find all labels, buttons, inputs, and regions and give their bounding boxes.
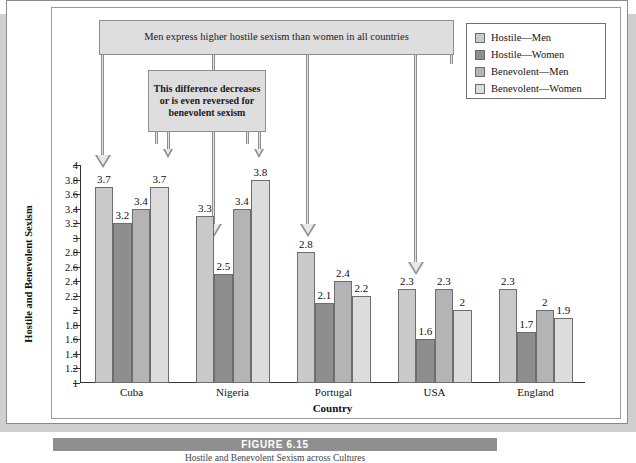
callout-top-statement: Men express higher hostile sexism than w… [99, 20, 454, 55]
legend-swatch-hostile-men [475, 33, 485, 43]
bar-value-label: 3.7 [139, 173, 179, 185]
y-tick-label: 4 [73, 160, 78, 171]
bar-value-label: 2.8 [286, 238, 326, 250]
x-axis-label-cuba: Cuba [95, 386, 169, 398]
figure-number-label: FIGURE 6.15 [241, 439, 309, 450]
y-tick-label: 2.4 [65, 276, 78, 287]
y-tick-label: 1.8 [65, 319, 78, 330]
legend-label-benevolent-women: Benevolent—Women [491, 83, 582, 94]
bar-portugal-benevolent-women[interactable] [352, 296, 371, 383]
y-tick-label: 3.8 [65, 174, 78, 185]
bar-portugal-hostile-women[interactable] [315, 303, 334, 383]
bar-value-label: 3.4 [222, 195, 262, 207]
bar-value-label: 3.4 [121, 195, 161, 207]
y-axis-title: Hostile and Benevolent Sexism [23, 205, 34, 342]
legend-swatch-benevolent-men [475, 67, 485, 77]
bar-usa-hostile-women[interactable] [416, 339, 435, 383]
callout-middle-text: This difference decreases or is even rev… [153, 83, 261, 118]
bar-usa-benevolent-women[interactable] [453, 310, 472, 383]
bar-value-label: 2.1 [304, 289, 344, 301]
connector-mid-nigeria-stub-a [246, 131, 249, 144]
bar-england-benevolent-women[interactable] [554, 318, 573, 383]
bar-value-label: 2.3 [424, 275, 464, 287]
x-axis-label-england: England [499, 386, 573, 398]
bar-group-cuba: 3.73.23.43.7Cuba [95, 165, 169, 383]
bar-value-label: 3.7 [84, 173, 124, 185]
bar-value-label: 2.4 [323, 267, 363, 279]
bar-nigeria-hostile-men[interactable] [196, 216, 215, 383]
y-tick-label: 2.6 [65, 261, 78, 272]
x-axis-label-portugal: Portugal [297, 386, 371, 398]
bar-value-label: 3.2 [102, 209, 142, 221]
connector-top-cuba-vertical [101, 54, 104, 157]
legend-label-hostile-women: Hostile—Women [491, 49, 564, 60]
y-tick-label: 3 [73, 232, 78, 243]
legend-swatch-hostile-women [475, 50, 485, 60]
y-tick-label: 3.6 [65, 189, 78, 200]
x-axis-label-nigeria: Nigeria [196, 386, 270, 398]
y-tick-label: 3.4 [65, 203, 78, 214]
figure-number-bar: FIGURE 6.15 [53, 438, 497, 451]
y-tick-label: 1.6 [65, 334, 78, 345]
bar-value-label: 2.3 [488, 275, 528, 287]
figure-card: Men express higher hostile sexism than w… [6, 0, 628, 424]
bar-cuba-benevolent-women[interactable] [150, 187, 169, 383]
bar-cuba-hostile-women[interactable] [113, 223, 132, 383]
y-tick-label: 2.8 [65, 247, 78, 258]
connector-top-right-stub [450, 54, 453, 64]
bar-value-label: 2.2 [341, 282, 381, 294]
legend-swatch-benevolent-women [475, 84, 485, 94]
legend-item-benevolent-men: Benevolent—Men [475, 63, 605, 80]
legend-label-benevolent-men: Benevolent—Men [491, 66, 569, 77]
bar-chart: Hostile and Benevolent Sexism 11.21.41.6… [80, 165, 585, 383]
arrow-to-cuba-benevolent [163, 149, 173, 158]
bar-value-label: 1.7 [506, 318, 546, 330]
bar-group-nigeria: 3.32.53.43.8Nigeria [196, 165, 270, 383]
legend-item-hostile-men: Hostile—Men [475, 29, 605, 46]
bar-group-england: 2.31.721.9England [499, 165, 573, 383]
bar-group-portugal: 2.82.12.42.2Portugal [297, 165, 371, 383]
bar-value-label: 1.9 [543, 304, 583, 316]
legend-label-hostile-men: Hostile—Men [491, 32, 551, 43]
bar-group-usa: 2.31.62.32USA [398, 165, 472, 383]
bar-value-label: 3.3 [185, 202, 225, 214]
y-tick-label: 3.2 [65, 218, 78, 229]
y-tick-label: 2.2 [65, 290, 78, 301]
figure-caption: Hostile and Benevolent Sexism across Cul… [53, 453, 497, 463]
x-axis-label-usa: USA [398, 386, 472, 398]
y-tick-label: 1 [73, 378, 78, 389]
x-axis-title: Country [80, 402, 585, 414]
bar-portugal-hostile-men[interactable] [297, 252, 316, 383]
bar-value-label: 2 [442, 296, 482, 308]
chart-legend: Hostile—Men Hostile—Women Benevolent—Men… [466, 23, 606, 99]
arrow-to-nigeria-benevolent [254, 149, 264, 158]
bar-value-label: 1.6 [405, 325, 445, 337]
connector-mid-cuba-vertical [167, 131, 170, 151]
legend-item-hostile-women: Hostile—Women [475, 46, 605, 63]
bar-value-label: 3.8 [240, 166, 280, 178]
legend-item-benevolent-women: Benevolent—Women [475, 80, 605, 97]
callout-middle-statement: This difference decreases or is even rev… [148, 70, 266, 132]
bar-value-label: 2.3 [387, 275, 427, 287]
callout-top-text: Men express higher hostile sexism than w… [144, 31, 409, 43]
bar-nigeria-benevolent-men[interactable] [233, 209, 252, 383]
y-tick-label: 1.4 [65, 348, 78, 359]
bar-england-hostile-men[interactable] [499, 289, 518, 383]
connector-mid-cuba-stub-a [155, 131, 158, 144]
bar-england-hostile-women[interactable] [517, 332, 536, 383]
bar-value-label: 2.5 [203, 260, 243, 272]
bar-nigeria-hostile-women[interactable] [214, 274, 233, 383]
bar-nigeria-benevolent-women[interactable] [251, 180, 270, 383]
bar-cuba-benevolent-men[interactable] [132, 209, 151, 383]
y-tick-label: 2 [73, 305, 78, 316]
connector-mid-nigeria-vertical [258, 131, 261, 151]
y-tick-label: 1.2 [65, 363, 78, 374]
